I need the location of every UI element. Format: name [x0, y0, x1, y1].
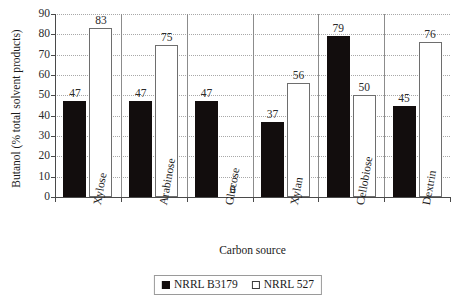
x-axis-tick	[253, 197, 254, 202]
legend-swatch-filled-icon	[162, 281, 170, 289]
bar-value-label: 45	[388, 93, 421, 105]
bar-value-label: 50	[348, 82, 381, 94]
x-axis-tick	[55, 197, 56, 202]
x-axis-title: Carbon source	[55, 244, 450, 256]
y-axis-line	[55, 14, 56, 197]
legend-swatch-hollow-icon	[252, 281, 260, 289]
y-axis-tick-label: 0	[26, 191, 50, 203]
legend-label-series-b: NRRL 527	[264, 278, 314, 291]
bar-series-a	[195, 101, 218, 197]
bar-value-label: 47	[190, 88, 223, 100]
legend-entry-series-b[interactable]: NRRL 527	[252, 278, 314, 291]
x-axis-tick	[450, 197, 451, 202]
bar-value-label: 75	[150, 32, 183, 44]
y-axis-tick-labels: 0102030405060708090	[22, 14, 50, 197]
bar-value-label: 37	[256, 109, 289, 121]
y-axis-tick-label: 10	[26, 171, 50, 183]
category-separator	[121, 14, 122, 197]
category-separator	[187, 14, 188, 197]
y-axis-tick-label: 30	[26, 130, 50, 142]
legend-label-series-a: NRRL B3179	[174, 278, 238, 291]
x-axis-tick	[121, 197, 122, 202]
bar-value-label: 47	[58, 88, 91, 100]
bar-value-label: 79	[322, 23, 355, 35]
bar-series-a	[63, 101, 86, 197]
bar-value-label: 56	[282, 70, 315, 82]
y-axis-tick-label: 40	[26, 110, 50, 122]
y-axis-tick-label: 70	[26, 49, 50, 61]
y-axis-tick-label: 80	[26, 28, 50, 40]
category-separator	[318, 14, 319, 197]
chart-figure: Butanol (% total solvent products) 01020…	[0, 0, 476, 303]
bar-series-a	[129, 101, 152, 197]
y-axis-tick-label: 90	[26, 8, 50, 20]
bar-series-a	[327, 36, 350, 197]
legend-entry-series-a[interactable]: NRRL B3179	[162, 278, 238, 291]
x-axis-tick	[384, 197, 385, 202]
bar-value-label: 83	[84, 15, 117, 27]
bar-value-label: 76	[414, 29, 447, 41]
plot-area: 47834775470375679504576	[55, 14, 450, 197]
bar-value-label: 47	[124, 88, 157, 100]
chart-legend: NRRL B3179 NRRL 527	[154, 275, 322, 295]
category-separator	[253, 14, 254, 197]
bar-series-a	[261, 122, 284, 197]
category-separator	[384, 14, 385, 197]
x-axis-tick	[318, 197, 319, 202]
y-axis-tick-label: 50	[26, 89, 50, 101]
y-axis-tick-label: 60	[26, 69, 50, 81]
y-axis-tick-label: 20	[26, 150, 50, 162]
x-axis-tick	[187, 197, 188, 202]
bar-series-a	[393, 106, 416, 198]
